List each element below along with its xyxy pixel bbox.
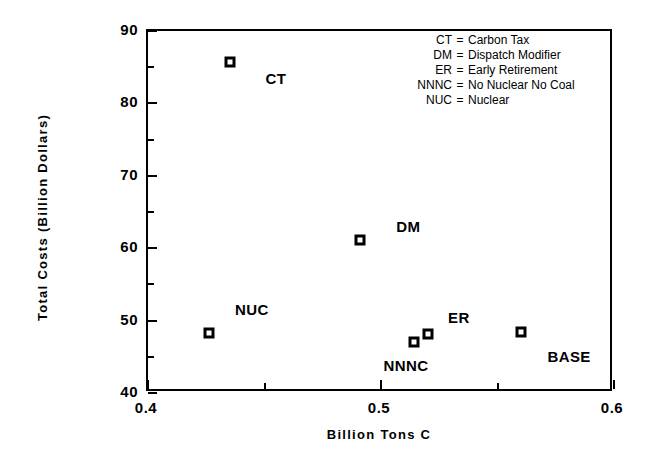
- y-tick-major: [148, 247, 157, 249]
- x-tick-label: 0.5: [349, 399, 409, 416]
- y-tick-label: 50: [98, 310, 138, 327]
- data-point-marker: [355, 234, 366, 245]
- y-tick-minor: [148, 283, 154, 285]
- y-tick-minor: [148, 66, 154, 68]
- y-tick-label: 60: [98, 238, 138, 255]
- legend-row: DM=Dispatch Modifier: [398, 48, 604, 62]
- legend-equals-sign: =: [452, 78, 468, 92]
- legend-description: Carbon Tax: [468, 33, 529, 47]
- legend-row: CT=Carbon Tax: [398, 33, 604, 47]
- legend-row: NUC=Nuclear: [398, 93, 604, 107]
- data-point-marker: [203, 328, 214, 339]
- legend-equals-sign: =: [452, 33, 468, 47]
- chart-legend: CT=Carbon TaxDM=Dispatch ModifierER=Earl…: [398, 33, 604, 108]
- x-axis-title: Billion Tons C: [146, 427, 612, 442]
- legend-equals-sign: =: [452, 48, 468, 62]
- legend-abbreviation: NNNC: [398, 78, 452, 92]
- y-tick-minor: [148, 211, 154, 213]
- legend-description: No Nuclear No Coal: [468, 78, 575, 92]
- legend-description: Nuclear: [468, 93, 509, 107]
- legend-equals-sign: =: [452, 63, 468, 77]
- y-tick-label: 70: [98, 165, 138, 182]
- x-tick-label: 0.6: [582, 399, 642, 416]
- legend-row: ER=Early Retirement: [398, 63, 604, 77]
- legend-description: Dispatch Modifier: [468, 48, 561, 62]
- data-point-label: NNNC: [383, 357, 428, 374]
- x-tick-major: [147, 380, 149, 389]
- x-tick-minor: [497, 383, 499, 389]
- data-point-marker: [408, 337, 419, 348]
- data-point-label: ER: [448, 308, 470, 325]
- scatter-chart-figure: Total Costs (Billion Dollars) Billion To…: [0, 0, 651, 471]
- y-tick-major: [148, 102, 157, 104]
- data-point-marker: [516, 326, 527, 337]
- data-point-label: BASE: [547, 347, 590, 364]
- data-point-label: CT: [265, 70, 286, 87]
- x-tick-minor: [264, 383, 266, 389]
- data-point-marker: [422, 328, 433, 339]
- y-tick-label: 40: [98, 383, 138, 400]
- legend-description: Early Retirement: [468, 63, 557, 77]
- y-tick-major: [148, 175, 157, 177]
- y-axis-title: Total Costs (Billion Dollars): [35, 88, 50, 348]
- y-tick-label: 80: [98, 93, 138, 110]
- x-tick-label: 0.4: [116, 399, 176, 416]
- x-tick-major: [380, 380, 382, 389]
- y-tick-minor: [148, 356, 154, 358]
- legend-abbreviation: DM: [398, 48, 452, 62]
- y-tick-major: [148, 30, 157, 32]
- data-point-label: DM: [396, 217, 420, 234]
- legend-abbreviation: CT: [398, 33, 452, 47]
- y-tick-major: [148, 392, 157, 394]
- legend-equals-sign: =: [452, 93, 468, 107]
- y-tick-label: 90: [98, 21, 138, 38]
- data-point-marker: [224, 57, 235, 68]
- y-tick-minor: [148, 139, 154, 141]
- legend-row: NNNC=No Nuclear No Coal: [398, 78, 604, 92]
- data-point-label: NUC: [235, 301, 269, 318]
- y-tick-major: [148, 320, 157, 322]
- legend-abbreviation: ER: [398, 63, 452, 77]
- x-tick-major: [613, 380, 615, 389]
- legend-abbreviation: NUC: [398, 93, 452, 107]
